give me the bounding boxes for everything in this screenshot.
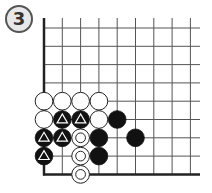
stone-body [108,111,126,129]
black-stone [127,129,145,147]
white-stone [72,166,90,184]
black-stone [53,111,71,129]
stones-layer [35,92,144,183]
white-stone [53,92,71,110]
white-stone [90,92,108,110]
black-stone [72,111,90,129]
stone-body [72,147,90,165]
stone-body [72,92,90,110]
black-stone [90,129,108,147]
white-stone [72,92,90,110]
white-stone [72,129,90,147]
stone-body [90,92,108,110]
stone-body [53,92,71,110]
stone-body [35,111,53,129]
black-stone [35,147,53,165]
stone-body [90,129,108,147]
stone-body [72,166,90,184]
white-stone [35,92,53,110]
white-stone [90,111,108,129]
stone-body [35,92,53,110]
black-stone [35,129,53,147]
black-stone [53,129,71,147]
black-stone [90,147,108,165]
diagram-number-label: 3 [5,5,33,33]
stone-body [90,147,108,165]
white-stone [72,147,90,165]
black-stone [108,111,126,129]
stone-body [90,111,108,129]
white-stone [35,111,53,129]
stone-body [72,129,90,147]
stone-body [127,129,145,147]
